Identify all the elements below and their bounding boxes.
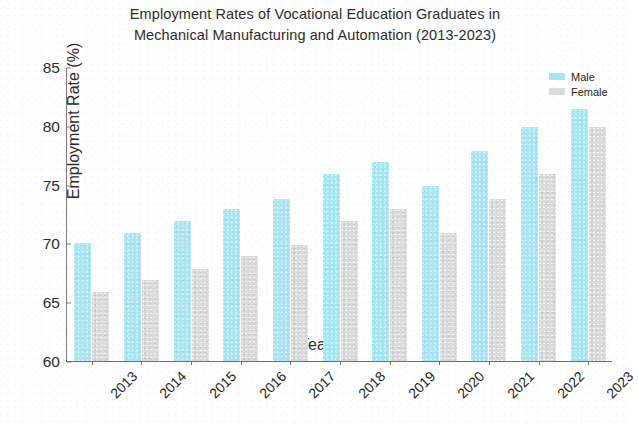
bar-female-2015 [192, 269, 209, 361]
legend-item-male[interactable]: Male [549, 70, 638, 83]
bar-female-2020 [440, 233, 457, 361]
bar-female-2023 [589, 127, 606, 361]
bar-female-2018 [341, 221, 358, 361]
x-tick-mark [290, 361, 291, 365]
y-tick-mark [67, 185, 71, 186]
x-tick-mark [340, 361, 341, 365]
x-tick-label-2021: 2021 [504, 368, 537, 401]
y-tick-label: 80 [43, 118, 67, 136]
y-tick-mark [67, 362, 71, 363]
chart-legend: MaleFemale [549, 70, 638, 100]
chart-title: Employment Rates of Vocational Education… [0, 4, 630, 46]
chart-title-line-1: Employment Rates of Vocational Education… [0, 4, 630, 25]
x-tick-label-2019: 2019 [405, 368, 438, 401]
bar-male-2020 [422, 186, 439, 361]
x-tick-label-2022: 2022 [554, 368, 587, 401]
x-tick-label-2013: 2013 [107, 368, 140, 401]
x-tick-mark [539, 361, 540, 365]
x-tick-mark [241, 361, 242, 365]
chart-title-line-2: Mechanical Manufacturing and Automation … [0, 25, 630, 46]
y-tick-label: 85 [43, 59, 67, 77]
y-tick-mark [67, 303, 71, 304]
y-tick-mark [67, 244, 71, 245]
bar-female-2022 [539, 174, 556, 361]
bar-male-2014 [124, 233, 141, 361]
x-tick-mark [390, 361, 391, 365]
x-tick-mark [141, 361, 142, 365]
bar-female-2013 [92, 292, 109, 361]
legend-label: Male [571, 71, 595, 83]
legend-label: Female [571, 86, 608, 98]
legend-swatch-icon [549, 73, 565, 80]
bar-female-2021 [489, 199, 506, 361]
y-tick-label: 75 [43, 177, 67, 195]
bar-male-2022 [521, 127, 538, 361]
y-tick-mark [67, 126, 71, 127]
x-tick-label-2023: 2023 [603, 368, 636, 401]
legend-swatch-icon [549, 88, 565, 95]
x-tick-label-2016: 2016 [256, 368, 289, 401]
x-tick-mark [439, 361, 440, 365]
x-tick-label-2018: 2018 [355, 368, 388, 401]
bar-male-2021 [471, 151, 488, 362]
plot-area: 606570758085 201320142015201620172018201… [66, 68, 612, 362]
y-tick-label: 70 [43, 235, 67, 253]
x-tick-label-2015: 2015 [206, 368, 239, 401]
x-tick-mark [92, 361, 93, 365]
bar-male-2015 [174, 221, 191, 361]
bar-female-2019 [390, 209, 407, 361]
bar-female-2016 [241, 256, 258, 361]
bar-male-2013 [74, 243, 91, 361]
bar-male-2018 [323, 174, 340, 361]
bar-female-2017 [291, 245, 308, 361]
bar-male-2019 [372, 162, 389, 361]
x-tick-mark [489, 361, 490, 365]
x-tick-label-2020: 2020 [454, 368, 487, 401]
legend-item-female[interactable]: Female [549, 85, 638, 98]
bar-male-2023 [571, 109, 588, 361]
bar-female-2014 [142, 280, 159, 361]
x-tick-mark [191, 361, 192, 365]
y-tick-mark [67, 68, 71, 69]
bar-male-2017 [273, 199, 290, 361]
y-tick-label: 65 [43, 294, 67, 312]
bar-male-2016 [223, 209, 240, 361]
x-tick-mark [588, 361, 589, 365]
x-tick-label-2014: 2014 [157, 368, 190, 401]
x-tick-label-2017: 2017 [305, 368, 338, 401]
y-tick-label: 60 [43, 353, 67, 371]
